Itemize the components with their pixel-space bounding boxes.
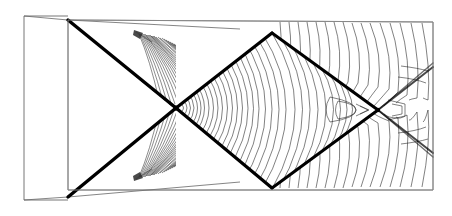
triple-point-1 bbox=[173, 105, 178, 110]
triple-point-2 bbox=[376, 108, 380, 112]
contour-plot-svg bbox=[0, 0, 452, 216]
figure-root bbox=[0, 0, 452, 216]
